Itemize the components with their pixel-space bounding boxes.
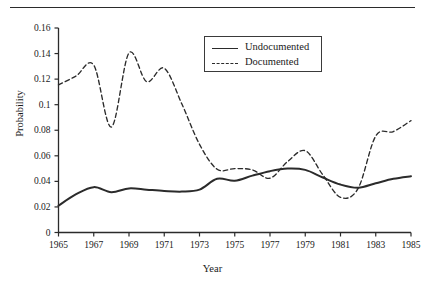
y-tick-label: 0.14 xyxy=(0,49,51,59)
x-tick-label: 1979 xyxy=(296,240,315,250)
x-tick-label: 1985 xyxy=(402,240,421,250)
x-tick-label: 1975 xyxy=(225,240,244,250)
x-tick-label: 1973 xyxy=(190,240,209,250)
series-line-undocumented xyxy=(59,168,412,205)
x-tick-label: 1977 xyxy=(261,240,280,250)
y-tick-label: 0.16 xyxy=(0,23,51,33)
legend-dashed-line-icon xyxy=(212,58,238,68)
y-tick-label: 0.1 xyxy=(0,100,51,110)
figure-container: 00.020.040.060.080.10.120.140.16 1965196… xyxy=(0,0,425,287)
y-tick-label: 0.12 xyxy=(0,74,51,84)
y-tick-label: 0.08 xyxy=(0,125,51,135)
legend-entry-undocumented: Undocumented xyxy=(212,40,309,55)
x-tick-label: 1971 xyxy=(155,240,174,250)
x-tick-label: 1969 xyxy=(120,240,139,250)
x-tick-label: 1965 xyxy=(49,240,68,250)
x-tick-label: 1981 xyxy=(331,240,350,250)
legend-label-undocumented: Undocumented xyxy=(245,42,309,53)
y-tick-label: 0.02 xyxy=(0,202,51,212)
series-line-documented xyxy=(59,52,412,199)
y-tick-label: 0.06 xyxy=(0,151,51,161)
legend-label-documented: Documented xyxy=(245,57,299,68)
x-axis-title: Year xyxy=(0,263,425,274)
data-series-layer xyxy=(59,52,412,206)
x-tick-label: 1967 xyxy=(84,240,103,250)
y-tick-label: 0 xyxy=(0,228,51,238)
y-axis-title: Probability xyxy=(14,69,25,159)
y-tick-label: 0.04 xyxy=(0,176,51,186)
legend-solid-line-icon xyxy=(212,43,238,53)
legend-entry-documented: Documented xyxy=(212,55,299,70)
chart-legend: Undocumented Documented xyxy=(204,36,322,72)
x-tick-label: 1983 xyxy=(366,240,385,250)
